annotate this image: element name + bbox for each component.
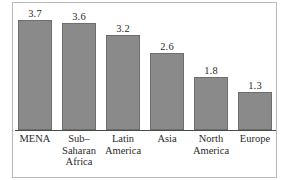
bar-group-europe: 1.3 xyxy=(237,2,273,130)
bar-group-north-america: 1.8 xyxy=(193,2,229,130)
bar[interactable] xyxy=(194,77,228,130)
bar-group-asia: 2.6 xyxy=(149,2,185,130)
bar-value-label: 1.8 xyxy=(204,65,218,76)
plot-area: 3.7 MENA 3.6 Sub– Saharan Africa 3.2 xyxy=(13,3,276,177)
category-label-line: Europe xyxy=(228,133,282,145)
category-label-line: America xyxy=(96,145,150,157)
bar-column: 3.6 xyxy=(61,2,97,130)
bar-column: 3.2 xyxy=(105,2,141,130)
bar-value-label: 3.6 xyxy=(72,11,86,22)
bar[interactable] xyxy=(238,92,272,130)
bar[interactable] xyxy=(106,35,140,130)
bar-group-latin-america: 3.2 xyxy=(105,2,141,130)
category-label-europe: Europe xyxy=(228,133,282,145)
bar-column: 3.7 xyxy=(17,2,53,130)
bar-value-label: 3.7 xyxy=(28,8,42,19)
bar-value-label: 1.3 xyxy=(248,80,262,91)
bar-value-label: 3.2 xyxy=(116,23,130,34)
category-label-line: America xyxy=(184,145,238,157)
bar[interactable] xyxy=(62,23,96,130)
category-label-line: Africa xyxy=(52,156,106,168)
bar[interactable] xyxy=(150,53,184,130)
bar-value-label: 2.6 xyxy=(160,41,174,52)
bar-group-sub-saharan-africa: 3.6 xyxy=(61,2,97,130)
bar-column: 2.6 xyxy=(149,2,185,130)
bar-column: 1.8 xyxy=(193,2,229,130)
x-axis-line xyxy=(15,130,276,131)
bar[interactable] xyxy=(18,20,52,130)
bar-chart-figure: 3.7 MENA 3.6 Sub– Saharan Africa 3.2 xyxy=(0,0,289,180)
bar-group-mena: 3.7 xyxy=(17,2,53,130)
bar-column: 1.3 xyxy=(237,2,273,130)
